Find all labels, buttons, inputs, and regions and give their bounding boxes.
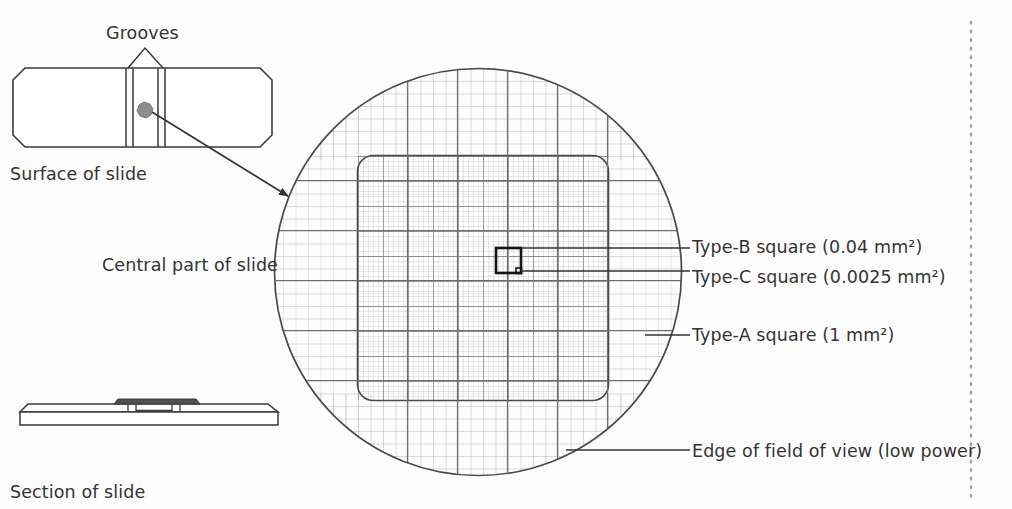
field-of-view-group — [270, 60, 694, 494]
label-type-b-square: Type-B square (0.04 mm²) — [692, 236, 922, 258]
label-surface-of-slide: Surface of slide — [10, 163, 147, 185]
coverslip — [114, 399, 200, 404]
label-section-of-slide: Section of slide showing coverslip in po… — [10, 437, 266, 509]
counting-chamber-grid — [358, 156, 608, 400]
field-of-view-rulings — [270, 60, 694, 494]
label-central-part-of-slide: Central part of slide — [102, 254, 278, 276]
label-grooves: Grooves — [106, 22, 179, 44]
label-edge-of-field-of-view: Edge of field of view (low power) — [692, 440, 982, 462]
figure-root: Grooves Surface of slide Central part of… — [0, 0, 1012, 509]
counting-area-spot — [137, 102, 153, 118]
label-section-of-slide-line1: Section of slide — [10, 481, 266, 503]
grooves-pointer — [128, 48, 163, 68]
label-type-a-square: Type-A square (1 mm²) — [692, 324, 894, 346]
slide-section-front-face — [20, 412, 278, 425]
slide-section-view-group — [20, 399, 278, 425]
label-type-c-square: Type-C square (0.0025 mm²) — [692, 266, 946, 288]
